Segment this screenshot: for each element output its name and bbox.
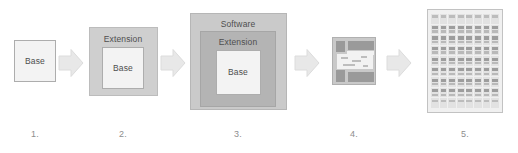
wafer-die-cell xyxy=(483,56,491,66)
wafer-die-cell xyxy=(457,77,465,87)
wafer-die-cell xyxy=(474,98,482,108)
extension-box: Extension Base xyxy=(89,27,158,96)
wafer-die-cell xyxy=(466,88,474,98)
wafer-die-cell xyxy=(466,14,474,24)
stage-4-caption: 4. xyxy=(328,128,380,140)
wafer-die-cell xyxy=(491,14,499,24)
wafer-die-cell xyxy=(474,46,482,56)
wafer-die-cell xyxy=(457,67,465,77)
wafer-die-cell xyxy=(431,67,439,77)
wafer-die-cell xyxy=(448,56,456,66)
wafer-die-cell xyxy=(483,67,491,77)
wafer-die-cell xyxy=(431,25,439,35)
wafer-die-cell xyxy=(466,25,474,35)
stage-5-graphic xyxy=(420,0,510,122)
wafer-die-cell xyxy=(431,56,439,66)
wafer-die-cell xyxy=(448,88,456,98)
wafer-die-cell xyxy=(440,56,448,66)
wafer-die-cell xyxy=(431,98,439,108)
wafer-die-cell xyxy=(474,14,482,24)
wafer-die-cell xyxy=(448,77,456,87)
wafer-die-cell xyxy=(440,67,448,77)
wafer-die-cell xyxy=(431,35,439,45)
wafer-die-cell xyxy=(483,25,491,35)
stage-1-caption: 1. xyxy=(0,128,70,140)
stage-2-caption: 2. xyxy=(86,128,160,140)
stage-2: Extension Base 2. xyxy=(86,0,160,153)
extension-box-label: Extension xyxy=(104,34,143,44)
process-flow-diagram: Base 1. Extension Base 2. xyxy=(0,0,518,153)
wafer-die-cell xyxy=(448,35,456,45)
wafer-die-cell xyxy=(466,46,474,56)
wafer-die-cell xyxy=(483,35,491,45)
wafer-die-cell xyxy=(491,35,499,45)
wafer-die-cell xyxy=(440,46,448,56)
stage-3-graphic: Software Extension Base xyxy=(188,0,288,122)
software-box-label: Software xyxy=(221,19,256,29)
wafer-die-cell xyxy=(440,14,448,24)
stage-3: Software Extension Base 3. xyxy=(188,0,288,153)
wafer-die-cell xyxy=(474,67,482,77)
wafer-die-cell xyxy=(474,88,482,98)
wafer-die-cell xyxy=(474,35,482,45)
extension-box: Extension Base xyxy=(200,31,276,107)
wafer-image xyxy=(427,9,503,113)
wafer-die-cell xyxy=(466,56,474,66)
wafer-die-cell xyxy=(491,25,499,35)
wafer-die-cell xyxy=(448,14,456,24)
arrow-right-icon-4 xyxy=(386,48,412,78)
wafer-die-cell xyxy=(491,56,499,66)
wafer-die-cell xyxy=(431,77,439,87)
wafer-die-cell xyxy=(483,46,491,56)
base-box: Base xyxy=(216,50,261,95)
wafer-die-cell xyxy=(431,14,439,24)
wafer-die-cell xyxy=(491,77,499,87)
wafer-die-cell xyxy=(448,25,456,35)
wafer-die-cell xyxy=(483,14,491,24)
wafer-die-cell xyxy=(431,88,439,98)
wafer-die-cell xyxy=(466,77,474,87)
arrow-right-icon-3 xyxy=(294,48,320,78)
wafer-die-cell xyxy=(483,88,491,98)
base-box: Base xyxy=(102,47,144,89)
wafer-die-cell xyxy=(457,35,465,45)
wafer-die-cell xyxy=(474,77,482,87)
arrow-right-icon-1 xyxy=(58,48,84,78)
wafer-die-cell xyxy=(440,88,448,98)
base-box-label: Base xyxy=(25,56,45,66)
wafer-die-cell xyxy=(491,67,499,77)
wafer-die-cell xyxy=(440,35,448,45)
wafer-die-cell xyxy=(466,98,474,108)
wafer-die-cell xyxy=(491,46,499,56)
stage-5: 5. xyxy=(420,0,510,153)
wafer-die-cell xyxy=(457,56,465,66)
software-box: Software Extension Base xyxy=(190,13,287,110)
wafer-die-cell xyxy=(457,46,465,56)
wafer-die-cell xyxy=(440,98,448,108)
arrow-right-icon-2 xyxy=(160,48,186,78)
chip-die-image xyxy=(332,37,376,85)
wafer-die-cell xyxy=(440,25,448,35)
base-box-label: Base xyxy=(228,67,248,77)
wafer-die-cell xyxy=(448,46,456,56)
wafer-die-cell xyxy=(466,35,474,45)
wafer-die-cell xyxy=(491,98,499,108)
wafer-die-cell xyxy=(474,56,482,66)
wafer-die-cell xyxy=(491,88,499,98)
wafer-die-cell xyxy=(466,67,474,77)
wafer-die-cell xyxy=(457,14,465,24)
stage-4: 4. xyxy=(328,0,380,153)
stage-3-caption: 3. xyxy=(188,128,288,140)
stage-5-caption: 5. xyxy=(420,128,510,140)
wafer-die-cell xyxy=(440,77,448,87)
wafer-die-cell xyxy=(457,25,465,35)
wafer-die-cell xyxy=(483,77,491,87)
base-box: Base xyxy=(14,40,56,82)
wafer-die-cell xyxy=(457,98,465,108)
wafer-die-cell xyxy=(431,46,439,56)
wafer-die-cell xyxy=(448,98,456,108)
stage-4-graphic xyxy=(328,0,380,122)
extension-box-label: Extension xyxy=(219,37,258,47)
base-box-label: Base xyxy=(113,63,133,73)
wafer-die-cell xyxy=(457,88,465,98)
